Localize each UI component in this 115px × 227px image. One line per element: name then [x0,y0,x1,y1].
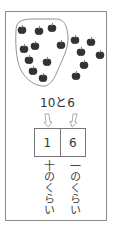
apple-extra [80,60,89,69]
apple-in-group [18,25,27,34]
apple-in-group [31,41,40,50]
apple-in-group [43,57,52,66]
apple-extra [71,35,80,44]
ones-cell: 6 [60,129,86,156]
apple-in-group [20,44,29,53]
apples-illustration [0,0,115,227]
apple-in-group [29,66,38,75]
apple-extra [77,47,86,56]
apple-extra [96,50,105,59]
number-header: 10と6 [0,96,115,110]
apple-in-group [25,55,34,64]
place-value-table: 1 6 [34,128,86,157]
apple-in-group [39,73,48,82]
tens-place-label: 十のくらい [40,160,54,215]
apple-in-group [57,40,66,49]
down-arrow-tens-icon [44,114,52,127]
apple-in-group [48,23,57,32]
apple-extra [72,71,81,80]
ones-place-label: 一のくらい [66,160,80,215]
apple-extra [87,37,96,46]
tens-cell: 1 [35,129,60,156]
down-arrow-ones-icon [70,114,77,127]
apple-in-group [35,26,44,35]
